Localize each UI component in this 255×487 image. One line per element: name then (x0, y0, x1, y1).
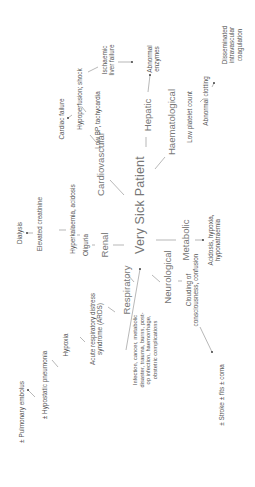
renal-hyperkalaemia: Hyperkalaemia, acidosis (69, 184, 76, 253)
resp-hypostatic-pneumonia: ± Hypostatic pneumonia (41, 351, 48, 420)
renal-oliguria: Oliguria (82, 234, 89, 256)
center-very-sick-patient: Very Sick Patient (133, 156, 147, 254)
cardio-cardiac-failure: Cardiac failure (58, 98, 65, 139)
haem-low-platelet: Low platelet count (186, 91, 193, 143)
haem-abnormal-clotting: Abnormal clotting (202, 76, 209, 125)
sick-patient-diagram: Very Sick Patient Infection, cancer, met… (0, 0, 255, 487)
resp-ards: Acute respiratory distress syndrome (ARD… (89, 293, 104, 365)
renal-dialysis: Dialysis (16, 222, 23, 244)
neuro-clouding: Clouding of consciousness, confusion (185, 254, 200, 327)
system-neurological: Neurological (162, 250, 173, 303)
metabolic-acidosis: Acidosis, hypoxia, hyponatraemia (207, 214, 222, 265)
resp-pulmonary-embolus: ± Pulmonary embolus (18, 381, 25, 443)
cardio-ischaemic-liver: Ischaemic liver failure (101, 45, 116, 76)
renal-creatinine: Elevated creatinine (36, 197, 43, 251)
system-respiratory: Respiratory (121, 265, 132, 314)
system-haematological: Haematological (166, 89, 177, 155)
cardio-low-bp: Low BP, tachycardia (94, 91, 101, 148)
system-hepatic: Hepatic (142, 99, 153, 132)
neuro-stroke: ± Stroke ± fits ± coma (218, 364, 225, 426)
resp-hypoxia: Hypoxia (62, 333, 69, 356)
cardio-hypoperfusion: Hypoperfusion; shock (76, 68, 83, 129)
hepatic-enzymes: Abnormal enzymes (146, 45, 161, 72)
cause-list: Infection, cancer, metabolic disaster, t… (132, 312, 159, 387)
haem-dic: Disseminated intravascular coagulation (221, 26, 243, 65)
system-renal: Renal (99, 232, 110, 257)
